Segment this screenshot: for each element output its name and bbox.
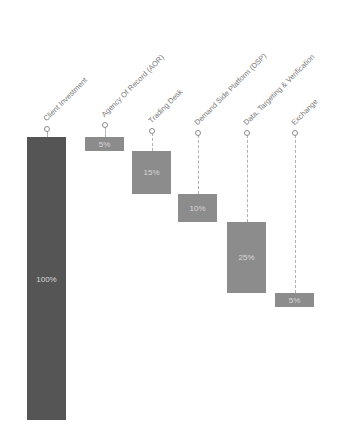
connector-line (247, 135, 248, 222)
marker-dot-icon (195, 130, 201, 136)
step-bar: 5% (275, 293, 314, 307)
step-bar: 10% (178, 194, 217, 222)
connector-line (295, 135, 296, 293)
connector-line (105, 127, 106, 137)
marker-dot-icon (149, 128, 155, 134)
category-label: Client Investment (41, 76, 88, 123)
step-bar: 5% (85, 137, 124, 151)
category-label: Trading Desk (146, 87, 184, 125)
value-label: 5% (275, 295, 314, 304)
category-label: Exchange (289, 97, 319, 127)
value-label: 10% (178, 203, 217, 212)
value-label: 100% (27, 274, 66, 283)
step-bar: 15% (132, 151, 171, 193)
value-label: 5% (85, 140, 124, 149)
marker-dot-icon (292, 130, 298, 136)
marker-dot-icon (44, 126, 50, 132)
marker-dot-icon (244, 130, 250, 136)
step-bar: 25% (227, 222, 266, 293)
total-bar: 100% (27, 137, 66, 420)
value-label: 15% (132, 168, 171, 177)
connector-line (198, 135, 199, 194)
waterfall-chart: Client Investment100%Agency Of Record (A… (0, 0, 350, 443)
marker-dot-icon (102, 122, 108, 128)
connector-line (152, 133, 153, 151)
value-label: 25% (227, 253, 266, 262)
